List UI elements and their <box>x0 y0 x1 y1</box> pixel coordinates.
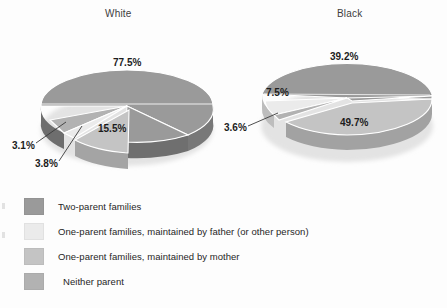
pie-black-svg <box>248 22 443 177</box>
pie-chart-figure: White Black <box>0 0 447 308</box>
legend-swatch-neither <box>24 273 44 290</box>
chart-legend: Two-parent families One-parent families,… <box>24 194 424 294</box>
scan-artifact-lower <box>2 232 5 238</box>
chart-title-black: Black <box>337 8 362 19</box>
chart-title-white: White <box>105 8 132 19</box>
legend-label-neither: Neither parent <box>58 276 124 287</box>
slice-label-black-two-parent: 39.2% <box>330 51 358 62</box>
slice-label-white-father: 3.1% <box>12 140 35 151</box>
legend-swatch-mother <box>24 248 44 265</box>
slice-label-black-father: 7.5% <box>266 87 289 98</box>
legend-item-neither: Neither parent <box>24 269 424 294</box>
scan-artifact-upper <box>2 203 5 209</box>
legend-label-two-parent: Two-parent families <box>58 201 141 212</box>
legend-item-father: One-parent families, maintained by fathe… <box>24 219 424 244</box>
slice-label-white-two-parent: 77.5% <box>113 57 141 68</box>
slice-label-black-neither: 3.6% <box>224 122 247 133</box>
slice-label-black-mother: 49.7% <box>340 117 368 128</box>
legend-item-mother: One-parent families, maintained by mothe… <box>24 244 424 269</box>
legend-swatch-father <box>24 223 44 240</box>
legend-label-mother: One-parent families, maintained by mothe… <box>58 251 240 262</box>
legend-swatch-two-parent <box>24 198 44 215</box>
legend-item-two-parent: Two-parent families <box>24 194 424 219</box>
slice-label-white-neither: 3.8% <box>35 158 58 169</box>
pie-chart-black <box>248 22 443 177</box>
pie-chart-white <box>28 22 223 177</box>
pie-white-svg <box>28 22 223 177</box>
slice-label-white-mother: 15.5% <box>98 123 126 134</box>
legend-label-father: One-parent families, maintained by fathe… <box>58 226 309 237</box>
